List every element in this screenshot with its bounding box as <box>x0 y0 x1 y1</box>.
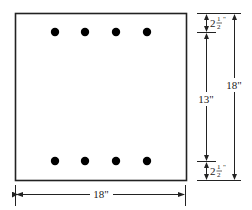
rebar-dot <box>51 157 59 165</box>
svg-text:2: 2 <box>210 165 216 177</box>
top-bars <box>51 28 151 36</box>
svg-text:13": 13" <box>198 93 214 105</box>
beam-section-diagram: 18" 2 1 2 " 13" 2 1 2 " <box>0 0 252 210</box>
svg-text:1: 1 <box>217 15 221 23</box>
width-label: 18" <box>93 188 109 200</box>
top-cover-dimension: 2 1 2 " <box>204 14 226 32</box>
rebar-dot <box>143 157 151 165</box>
section-outline <box>16 14 187 181</box>
svg-text:2: 2 <box>217 171 221 179</box>
bottom-cover-dimension: 2 1 2 " <box>204 162 226 180</box>
rebar-dot <box>81 28 89 36</box>
svg-text:": " <box>223 163 226 171</box>
rebar-dot <box>143 28 151 36</box>
bottom-bars <box>51 157 151 165</box>
rebar-dot <box>112 28 120 36</box>
svg-text:18": 18" <box>226 79 242 91</box>
svg-text:1: 1 <box>217 163 221 171</box>
rebar-dot <box>81 157 89 165</box>
svg-text:": " <box>223 15 226 23</box>
bar-spacing-dimension: 13" <box>198 33 214 161</box>
svg-text:2: 2 <box>217 23 221 31</box>
rebar-dot <box>112 157 120 165</box>
height-dimension: 18" <box>226 14 242 180</box>
rebar-dot <box>51 28 59 36</box>
svg-text:2: 2 <box>210 17 216 29</box>
